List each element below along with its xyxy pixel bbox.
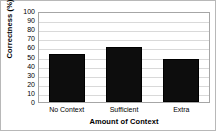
y-tick-label: 30 xyxy=(15,72,35,80)
bar[interactable] xyxy=(163,59,199,102)
y-tick-label: 100 xyxy=(15,8,35,16)
x-tick-label: Extra xyxy=(153,105,210,117)
x-axis-title: Amount of Context xyxy=(38,117,210,127)
bar-slot xyxy=(39,13,96,102)
bar-chart-figure: Correctness (%) 1009080706050403020100 N… xyxy=(0,0,216,131)
y-tick-label: 40 xyxy=(15,63,35,71)
x-tick-label: Sufficient xyxy=(95,105,152,117)
bar-slot xyxy=(152,13,209,102)
y-tick-label: 50 xyxy=(15,54,35,62)
y-tick-label: 90 xyxy=(15,17,35,25)
bar[interactable] xyxy=(49,54,85,102)
x-tick-label: No Context xyxy=(38,105,95,117)
y-tick-label: 10 xyxy=(15,90,35,98)
y-tick-label: 20 xyxy=(15,81,35,89)
y-tick-label: 70 xyxy=(15,35,35,43)
y-axis-tick-labels: 1009080706050403020100 xyxy=(15,6,35,109)
bar[interactable] xyxy=(106,47,142,102)
y-tick-label: 60 xyxy=(15,44,35,52)
bar-slot xyxy=(96,13,153,102)
x-axis-tick-labels: No ContextSufficientExtra xyxy=(38,105,210,117)
y-tick-label: 80 xyxy=(15,26,35,34)
y-tick-label: 0 xyxy=(15,99,35,107)
bar-series xyxy=(39,13,209,102)
plot-area xyxy=(38,12,210,103)
